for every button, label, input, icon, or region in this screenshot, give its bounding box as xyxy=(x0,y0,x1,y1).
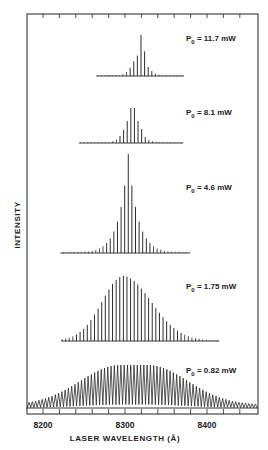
trace-label-2: P0 = 8.1 mW xyxy=(186,108,232,119)
bottom-minor-ticks xyxy=(43,409,240,414)
x-tick-label-8400: 8400 xyxy=(198,420,217,430)
trace-labels: P0 = 11.7 mWP0 = 8.1 mWP0 = 4.6 mWP0 = 1… xyxy=(186,34,237,377)
y-axis-title: INTENSITY xyxy=(13,201,22,248)
x-axis-title: LASER WAVELENGTH (Å) xyxy=(70,434,181,443)
trace-label-4: P0 = 1.75 mW xyxy=(186,282,237,293)
trace-label-3: P0 = 4.6 mW xyxy=(186,183,232,194)
spectrum-traces xyxy=(27,35,258,408)
x-tick-label-8300: 8300 xyxy=(116,420,135,430)
top-minor-ticks xyxy=(43,14,240,18)
x-tick-label-8200: 8200 xyxy=(34,420,53,430)
trace-label-5: P0 = 0.82 mW xyxy=(186,366,237,377)
spectrum-trace-2 xyxy=(79,108,183,143)
spectrum-trace-3 xyxy=(60,154,190,253)
spectra-chart: P0 = 11.7 mWP0 = 8.1 mWP0 = 4.6 mWP0 = 1… xyxy=(0,0,268,450)
spectrum-trace-1 xyxy=(96,35,184,76)
plot-frame xyxy=(27,14,258,414)
trace-label-1: P0 = 11.7 mW xyxy=(186,34,236,45)
